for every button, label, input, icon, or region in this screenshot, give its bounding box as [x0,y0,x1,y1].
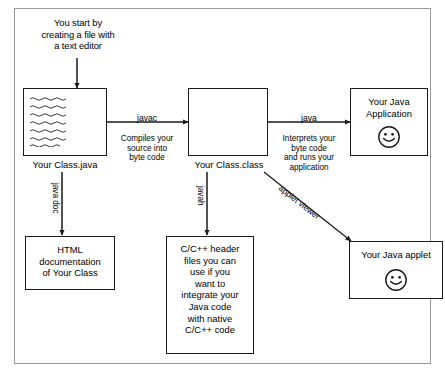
source-lines-icon [29,95,73,147]
smiley-face-icon [384,268,408,292]
smiley-face-icon [377,125,401,149]
label-java-applet: Your Java applet [350,249,442,261]
box-class-file [188,88,268,156]
diagram-canvas: You start by creating a file with a text… [0,0,445,378]
intro-note: You start by creating a file with a text… [18,17,138,52]
arrow-tool-javac: javac [106,114,188,124]
box-java-application: Your Java Application [350,88,428,156]
arrow-label-javadoc: java doc [51,183,60,214]
arrow-label-java: java Interprets your byte code and runs … [268,104,350,173]
box-c-headers: C/C++ header files you can use if you wa… [166,236,254,354]
arrow-desc-javac: Compiles your source into byte code [121,134,173,162]
box-java-applet: Your Java applet [349,241,443,299]
arrow-label-javac: javac Compiles your source into byte cod… [106,104,188,163]
label-html-documentation: HTML documentation of Your Class [26,244,114,279]
arrow-tool-java: java [268,114,350,124]
box-html-documentation: HTML documentation of Your Class [25,236,115,290]
label-java-application: Your Java Application [351,96,427,119]
label-class-file: Your Class.class [178,159,280,170]
label-c-headers: C/C++ header files you can use if you wa… [167,243,253,336]
arrow-label-javah: javah [196,186,205,206]
label-source-file: Your Class.java [15,159,115,170]
box-source-file [23,88,107,156]
arrow-desc-java: Interprets your byte code and runs your … [283,134,336,172]
